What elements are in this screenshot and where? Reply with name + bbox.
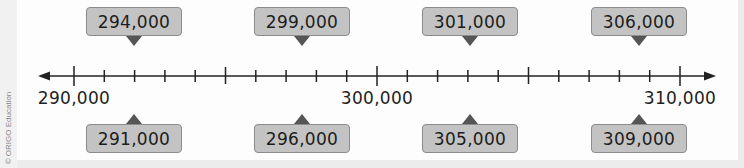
tick-label-300000: 300,000	[341, 88, 413, 108]
right-arrow-icon	[704, 72, 716, 81]
callout-bottom-4: 309,000	[591, 124, 687, 153]
callout-top-1: 294,000	[86, 7, 182, 36]
left-arrow-icon	[38, 72, 50, 81]
callout-bottom-2: 296,000	[254, 124, 350, 153]
callout-bottom-1: 291,000	[86, 124, 182, 153]
pointer-down-icon	[631, 36, 647, 46]
pointer-down-icon	[294, 36, 310, 46]
callout-bottom-3: 305,000	[422, 124, 518, 153]
pointer-up-icon	[631, 114, 647, 124]
callout-top-2: 299,000	[254, 7, 350, 36]
pointer-up-icon	[462, 114, 478, 124]
callout-top-4: 306,000	[591, 7, 687, 36]
pointer-down-icon	[126, 36, 142, 46]
callout-top-3: 301,000	[422, 7, 518, 36]
tick-label-310000: 310,000	[644, 88, 716, 108]
ticks	[74, 66, 680, 86]
pointer-down-icon	[462, 36, 478, 46]
pointer-up-icon	[126, 114, 142, 124]
tick-label-290000: 290,000	[38, 88, 110, 108]
pointer-up-icon	[294, 114, 310, 124]
